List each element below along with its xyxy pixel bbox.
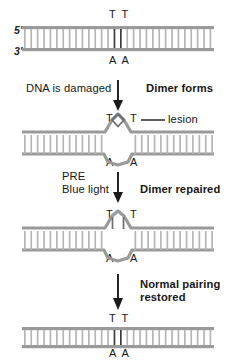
backbone-bottom: [22, 154, 214, 165]
base-pair-rungs-left: [24, 135, 103, 154]
backbone-bottom: [22, 48, 214, 51]
dna-duplex-repaired: [0, 208, 236, 264]
backbone-top: [22, 26, 214, 29]
base-pair-rungs-right: [135, 135, 214, 154]
thymine-rung-2: [120, 29, 122, 48]
base-pair-rungs-left: [24, 231, 103, 250]
thymine-rung-1: [114, 29, 116, 48]
step-2-arrow-icon: [0, 170, 236, 204]
backbone-bottom: [22, 250, 214, 261]
dna-duplex-undamaged: [0, 22, 236, 58]
backbone-top: [22, 327, 214, 330]
base-pair-rungs-right: [135, 231, 214, 250]
backbone-bottom: [22, 345, 214, 348]
backbone-top: [22, 114, 214, 132]
thymine-rung-2: [120, 330, 122, 345]
step-3-arrow-icon: [0, 272, 236, 312]
backbone-top: [22, 211, 214, 228]
restored-top-bases-label: T T: [109, 313, 130, 325]
figure-canvas: 5′ 3′ T T A A: [0, 0, 236, 364]
top-bases-label: T T: [109, 9, 130, 21]
dna-duplex-dimer: [0, 112, 236, 168]
base-pair-rungs: [24, 29, 211, 48]
dna-duplex-restored: [0, 326, 236, 352]
base-pair-rungs: [24, 330, 211, 345]
step-1-arrow-icon: [0, 78, 236, 112]
thymine-rung-1: [114, 330, 116, 345]
